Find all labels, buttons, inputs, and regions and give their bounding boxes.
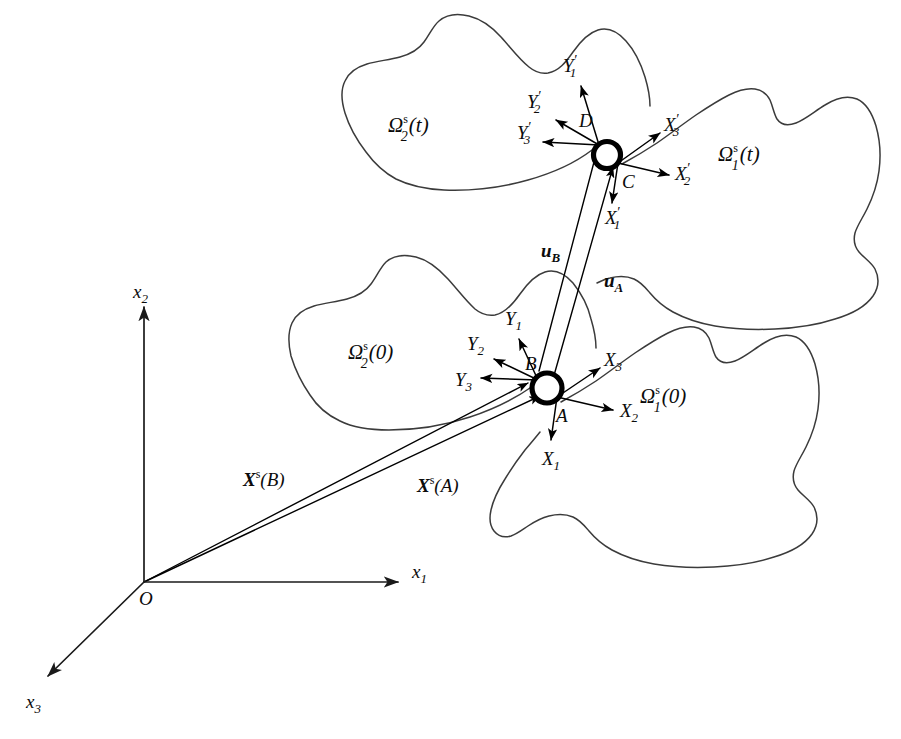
global-axes-origin-label: O [139, 588, 153, 609]
vector-label-uB: uB [541, 240, 561, 265]
global-axis-label-x3: x3 [25, 691, 41, 716]
global-axis-label-x1: x1 [411, 561, 427, 586]
vector-label-XsB: Xs(B) [242, 467, 285, 491]
position-vector-XA-line [144, 396, 540, 582]
frame-label-X2-prime: X′2 [674, 161, 691, 188]
contact-point-label-B: B [525, 353, 537, 374]
contact-kinematics-diagram: Ωs2(t) Ωs1(t) Ωs2(0) Ωs1(0) A B C D X1 X… [0, 0, 901, 739]
frame-label-X1-prime: X′1 [604, 205, 621, 232]
figure-container: Ωs2(t) Ωs1(t) Ωs2(0) Ωs1(0) A B C D X1 X… [0, 0, 901, 739]
contact-point-label-D: D [578, 110, 593, 131]
contact-point-label-A: A [554, 405, 568, 426]
frame-label-X3-prime: X′3 [663, 112, 680, 139]
contact-ring-reference [532, 373, 562, 403]
global-axis-label-x2: x2 [132, 281, 148, 306]
contact-ring-current [594, 142, 621, 169]
body-outline-omega1-current [597, 89, 880, 330]
contact-point-label-C: C [622, 171, 635, 192]
frame-label-Y2-prime: Y′2 [527, 89, 542, 116]
frame-label-Y1-prime: Y′1 [563, 53, 578, 80]
frame-label-Y3-prime: Y′3 [517, 120, 532, 147]
global-axis-x3-line [48, 582, 144, 676]
vector-label-XsA: Xs(A) [416, 473, 459, 497]
